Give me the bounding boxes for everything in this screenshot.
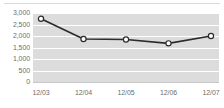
series-line-layer <box>33 13 219 82</box>
line-chart-widget: 05001,0001,5002,0002,5003,000 12/0312/04… <box>0 0 224 108</box>
plot-area <box>33 13 219 82</box>
y-tick-label: 3,000 <box>13 9 30 17</box>
y-tick-label: 500 <box>19 67 30 75</box>
y-axis: 05001,0001,5002,0002,5003,000 <box>0 13 30 82</box>
x-axis-line <box>33 82 219 83</box>
y-tick-label: 1,000 <box>13 55 30 63</box>
y-tick-label: 2,500 <box>13 21 30 29</box>
top-divider <box>4 3 220 4</box>
data-point-marker[interactable] <box>38 16 43 21</box>
y-tick-label: 1,500 <box>13 44 30 52</box>
x-tick-label: 12/07 <box>202 88 219 97</box>
x-tick-label: 12/03 <box>32 88 49 97</box>
data-point-marker[interactable] <box>123 37 128 42</box>
x-tick-label: 12/05 <box>117 88 134 97</box>
x-tick-label: 12/06 <box>160 88 177 97</box>
data-point-marker[interactable] <box>81 36 86 41</box>
data-point-marker[interactable] <box>208 33 213 38</box>
y-tick-label: 2,000 <box>13 32 30 40</box>
x-axis: 12/0312/0412/0512/0612/07 <box>33 88 219 100</box>
y-tick-label: 0 <box>26 78 30 86</box>
x-tick-label: 12/04 <box>75 88 92 97</box>
data-point-marker[interactable] <box>166 41 171 46</box>
